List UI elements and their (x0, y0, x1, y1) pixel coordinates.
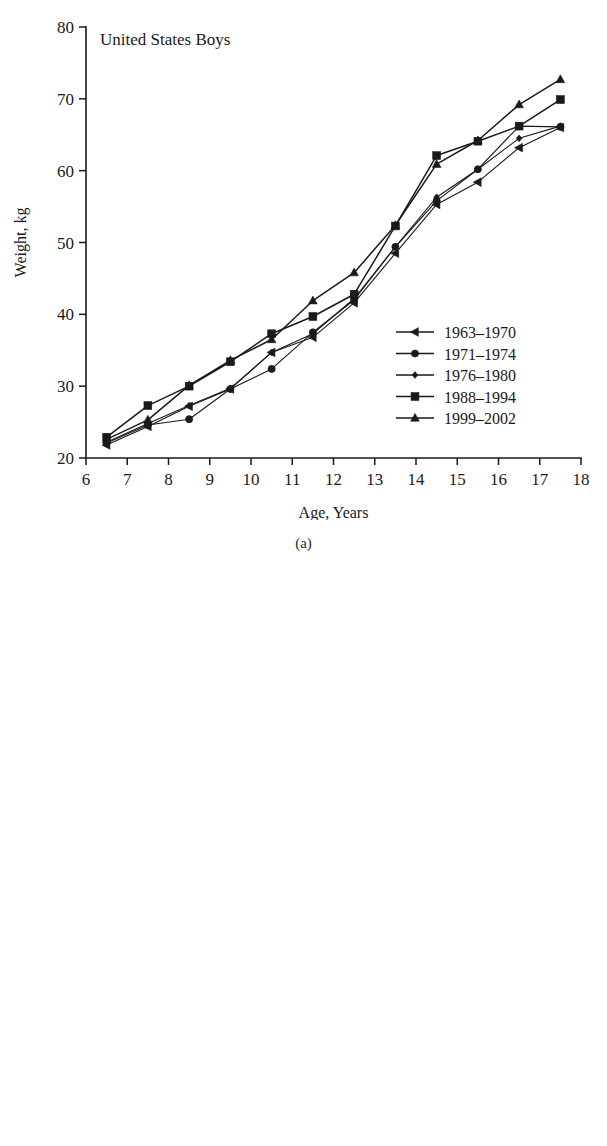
chart-figure-a: 203040506070806789101112131415161718Age,… (0, 0, 607, 520)
chart-panel-b: 203040506070806789101112131415161718Age,… (0, 573, 607, 1146)
x-tick-label: 6 (82, 470, 91, 489)
chart-panel-a: 203040506070806789101112131415161718Age,… (0, 0, 607, 573)
legend-label: 1971–1974 (444, 346, 516, 363)
series-5 (102, 75, 564, 443)
x-tick-label: 14 (408, 470, 426, 489)
y-tick-label: 80 (57, 18, 74, 37)
x-tick-label: 15 (449, 470, 466, 489)
x-tick-label: 10 (243, 470, 260, 489)
data-point-marker-square (515, 122, 523, 130)
y-tick-label: 70 (57, 90, 74, 109)
legend-label: 1999–2002 (444, 410, 516, 427)
y-axis-title: Weight, kg (12, 208, 30, 278)
data-point-marker-triangle-left (473, 178, 481, 187)
y-tick-label: 30 (57, 377, 74, 396)
y-tick-label: 20 (57, 449, 74, 468)
data-point-marker-triangle-up (556, 75, 565, 83)
x-tick-label: 12 (325, 470, 342, 489)
data-point-marker-square (309, 313, 317, 321)
data-point-marker-circle (186, 416, 193, 423)
legend: 1963–19701971–19741976–19801988–19941999… (396, 324, 516, 427)
x-tick-label: 13 (366, 470, 383, 489)
legend-item-1: 1963–1970 (396, 324, 516, 341)
x-tick-label: 11 (284, 470, 300, 489)
x-axis-title: Age, Years (299, 504, 369, 520)
data-point-marker-triangle-up (515, 100, 524, 108)
legend-label: 1963–1970 (444, 324, 516, 341)
y-tick-label: 40 (57, 305, 74, 324)
data-point-marker-triangle-up (309, 296, 318, 304)
x-tick-label: 17 (531, 470, 549, 489)
data-point-marker-diamond (516, 135, 522, 142)
legend-label: 1976–1980 (444, 367, 516, 384)
subfigure-caption-a: (a) (0, 535, 607, 552)
legend-item-4: 1988–1994 (396, 389, 516, 406)
x-tick-label: 8 (164, 470, 173, 489)
data-point-marker-square (433, 152, 441, 160)
data-point-marker-square (411, 393, 419, 401)
legend-label: 1988–1994 (444, 389, 516, 406)
y-tick-label: 50 (57, 234, 74, 253)
data-point-marker-diamond (412, 372, 418, 379)
y-tick-label: 60 (57, 162, 74, 181)
legend-item-3: 1976–1980 (396, 367, 516, 384)
data-point-marker-triangle-left (410, 328, 418, 337)
data-point-marker-square (144, 402, 152, 410)
x-tick-label: 7 (123, 470, 132, 489)
series-polyline (107, 79, 561, 439)
figure-page: 203040506070806789101112131415161718Age,… (0, 0, 607, 1146)
x-tick-label: 16 (490, 470, 507, 489)
legend-item-2: 1971–1974 (396, 346, 516, 363)
series-polyline (107, 100, 561, 438)
legend-item-5: 1999–2002 (396, 410, 516, 427)
data-point-marker-circle (268, 365, 275, 372)
x-tick-label: 9 (206, 470, 215, 489)
data-point-marker-square (556, 96, 564, 104)
data-point-marker-square (350, 290, 358, 298)
line-chart-a: 203040506070806789101112131415161718Age,… (0, 0, 607, 520)
x-tick-label: 18 (573, 470, 590, 489)
plot-title: United States Boys (100, 30, 230, 49)
data-point-marker-circle (411, 350, 418, 357)
